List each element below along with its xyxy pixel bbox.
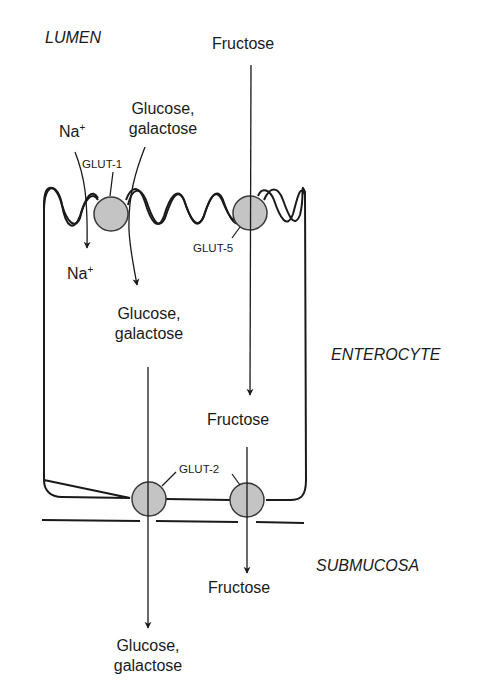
glut2-label: GLUT-2 — [179, 462, 219, 476]
glucose-submucosa-line2: galactose — [103, 656, 193, 676]
fructose-submucosa-label: Fructose — [208, 578, 270, 598]
glut2-leader-right — [232, 474, 240, 485]
basement-membrane-right — [256, 522, 304, 523]
glut1-leader — [110, 172, 113, 196]
basement-membrane-left — [42, 520, 140, 521]
glut5-label: GLUT-5 — [193, 241, 233, 255]
fructose-cell-label: Fructose — [207, 410, 269, 430]
region-label-submucosa: SUBMUCOSA — [316, 556, 419, 576]
glucose-lumen-line1: Glucose, — [118, 99, 208, 119]
glut1-transporter — [94, 197, 128, 231]
na-cell-charge: + — [87, 264, 93, 275]
fructose-uptake-arrow — [250, 65, 251, 395]
glucose-cell-label: Glucose, galactose — [104, 304, 194, 344]
na-cell-symbol: Na — [67, 265, 87, 282]
glut1-label: GLUT-1 — [82, 157, 122, 171]
basement-membrane-middle — [156, 521, 238, 522]
glut5-leader — [232, 227, 240, 238]
region-label-lumen: LUMEN — [45, 28, 101, 48]
glucose-lumen-line2: galactose — [118, 119, 208, 139]
region-label-enterocyte: ENTEROCYTE — [331, 345, 440, 365]
glut2-leader-left — [162, 472, 176, 486]
na-cell-label: Na+ — [67, 264, 93, 284]
glucose-submucosa-line1: Glucose, — [103, 636, 193, 656]
na-lumen-symbol: Na — [59, 123, 79, 140]
glucose-submucosa-label: Glucose, galactose — [103, 636, 193, 676]
glucose-uptake-arrow — [129, 147, 145, 285]
na-lumen-label: Na+ — [59, 122, 85, 142]
glucose-cell-line2: galactose — [104, 324, 194, 344]
glut2-transporter-glucose — [132, 482, 166, 516]
na-lumen-charge: + — [79, 122, 85, 133]
glucose-lumen-label: Glucose, galactose — [118, 99, 208, 139]
glucose-cell-line1: Glucose, — [104, 304, 194, 324]
fructose-lumen-label: Fructose — [212, 34, 274, 54]
